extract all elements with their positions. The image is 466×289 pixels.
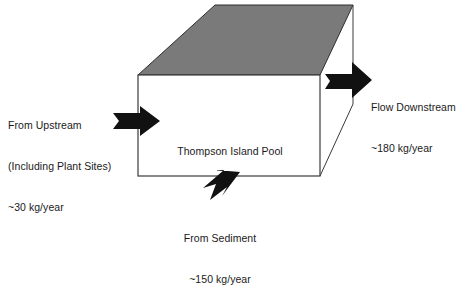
block-arrow-right-icon — [325, 62, 372, 98]
upstream-inflow-label-line-1: From Upstream — [8, 119, 111, 133]
box-top-face — [138, 5, 353, 75]
downstream-outflow-label: Flow Downstream ~180 kg/year — [371, 74, 456, 183]
upstream-inflow-label-line-3: ~30 kg/year — [8, 201, 111, 215]
sediment-inflow-label-line-2: ~150 kg/year — [155, 273, 285, 287]
downstream-outflow-label-line-1: Flow Downstream — [371, 101, 456, 115]
downstream-outflow-label-line-2: ~180 kg/year — [371, 142, 456, 156]
sediment-inflow-label-line-1: From Sediment — [155, 232, 285, 246]
upstream-inflow-label: From Upstream (Including Plant Sites) ~3… — [8, 92, 111, 242]
sediment-inflow-label: From Sediment ~150 kg/year — [155, 205, 285, 289]
box-label: Thompson Island Pool — [148, 118, 312, 186]
upstream-inflow-label-line-2: (Including Plant Sites) — [8, 160, 111, 174]
box-bottom-right-diagonal-edge — [320, 104, 353, 176]
box-label-line: Thompson Island Pool — [148, 145, 312, 159]
